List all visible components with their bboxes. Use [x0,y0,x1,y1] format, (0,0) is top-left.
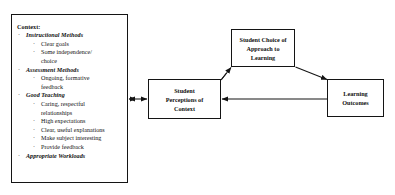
context-panel-content: Context: · Instructional Methods · Clear… [17,23,124,160]
node-line: Context [166,104,204,113]
context-item-continuation: choice [17,57,124,66]
node-line: Outcomes [342,98,368,107]
node-label: Learning Outcomes [342,89,368,107]
bullet-icon: · [33,143,35,152]
node-label: Student Choice of Approach to Learning [239,35,286,62]
bullet-icon: · [18,91,20,100]
bullet-icon: · [33,117,35,126]
bullet-icon: · [18,66,20,75]
context-item-label: High expectations [41,118,86,124]
bullet-icon: · [33,100,35,109]
bullet-icon: · [18,31,20,40]
context-item-label: Some independence/ [41,49,92,55]
context-item: · Caring, respectful [17,100,124,109]
context-group-label: Good Teaching [26,92,65,98]
context-item: · Provide feedback [17,143,124,152]
context-item-label: Clear goals [41,41,69,47]
node-label: Student Perceptions of Context [166,86,204,113]
context-heading: Context: [17,23,124,31]
context-item-label: Provide feedback [41,144,84,150]
context-group-label: Appropriate Workloads [26,153,85,159]
context-item-continuation: relationships [17,109,124,118]
context-item: · Ongoing, formative [17,74,124,83]
context-group-label: Assessment Methods [26,67,79,73]
context-group-assessment-methods: · Assessment Methods [17,66,124,75]
bullet-icon: · [33,48,35,57]
context-group-good-teaching: · Good Teaching [17,91,124,100]
context-item-label: Caring, respectful [41,101,85,107]
context-item: · Clear, useful explanations [17,126,124,135]
node-line: Learning [239,53,286,62]
context-item: · Some independence/ [17,48,124,57]
context-item-continuation: feedback [17,83,124,92]
context-item-label: Clear, useful explanations [41,127,105,133]
context-group-appropriate-workloads: · Appropriate Workloads [17,152,124,161]
connector-perceptions-to-choice [222,68,232,80]
bullet-icon: · [33,74,35,83]
node-student-choice-of-approach-to-learning: Student Choice of Approach to Learning [231,29,295,67]
node-student-perceptions-of-context: Student Perceptions of Context [148,79,221,119]
context-item-label: Ongoing, formative [41,75,89,81]
connector-choice-to-outcomes [296,67,328,80]
context-item: · High expectations [17,117,124,126]
node-line: Student Choice of [239,35,286,44]
context-group-instructional-methods: · Instructional Methods [17,31,124,40]
context-group-label: Instructional Methods [26,32,83,38]
node-line: Approach to [239,44,286,53]
context-item: · Make subject interesting [17,134,124,143]
bullet-icon: · [33,134,35,143]
context-item-label: Make subject interesting [41,135,101,141]
context-panel: Context: · Instructional Methods · Clear… [11,14,128,183]
node-line: Perceptions of [166,95,204,104]
context-item: · Clear goals [17,40,124,49]
node-learning-outcomes: Learning Outcomes [327,79,384,117]
bullet-icon: · [33,40,35,49]
diagram-canvas: Context: · Instructional Methods · Clear… [0,0,395,195]
bullet-icon: · [33,126,35,135]
node-line: Student [166,86,204,95]
connector-perceptions-to-choice-stem [221,73,227,80]
bullet-icon: · [18,152,20,161]
node-line: Learning [342,89,368,98]
